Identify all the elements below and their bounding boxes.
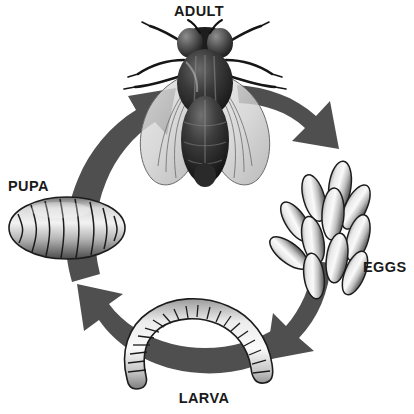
stage-label-pupa: PUPA: [8, 178, 49, 194]
lifecycle-diagram: ADULT EGGS LARVA PUPA: [0, 0, 414, 414]
larva-body: [125, 299, 273, 389]
stage-label-larva: LARVA: [179, 390, 230, 406]
stage-label-adult: ADULT: [174, 3, 224, 19]
larva-figure: [125, 299, 273, 389]
pupa-figure: [9, 197, 125, 259]
fly-abdomen-tip: [194, 163, 216, 187]
stage-label-eggs: EGGS: [363, 259, 407, 275]
lifecycle-canvas: ADULT EGGS LARVA PUPA: [0, 0, 414, 414]
eggs-figure: [265, 160, 376, 300]
